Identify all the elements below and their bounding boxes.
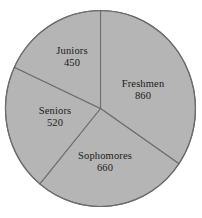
pie-label-seniors: Seniors 520 xyxy=(39,105,72,129)
pie-label-seniors-name: Seniors xyxy=(39,105,72,117)
pie-chart-graphic xyxy=(0,0,202,218)
pie-label-juniors: Juniors 450 xyxy=(56,45,87,69)
pie-chart-figure: Freshmen 860 Sophomores 660 Seniors 520 … xyxy=(0,0,202,218)
pie-label-juniors-value: 450 xyxy=(56,57,87,69)
pie-label-sophomores-value: 660 xyxy=(78,162,132,174)
pie-label-seniors-value: 520 xyxy=(39,117,72,129)
pie-slices xyxy=(6,11,196,207)
pie-label-juniors-name: Juniors xyxy=(56,45,87,57)
pie-label-freshmen-value: 860 xyxy=(122,90,165,102)
pie-label-sophomores-name: Sophomores xyxy=(78,150,132,162)
pie-label-freshmen: Freshmen 860 xyxy=(122,78,165,102)
pie-label-sophomores: Sophomores 660 xyxy=(78,150,132,174)
pie-label-freshmen-name: Freshmen xyxy=(122,78,165,90)
